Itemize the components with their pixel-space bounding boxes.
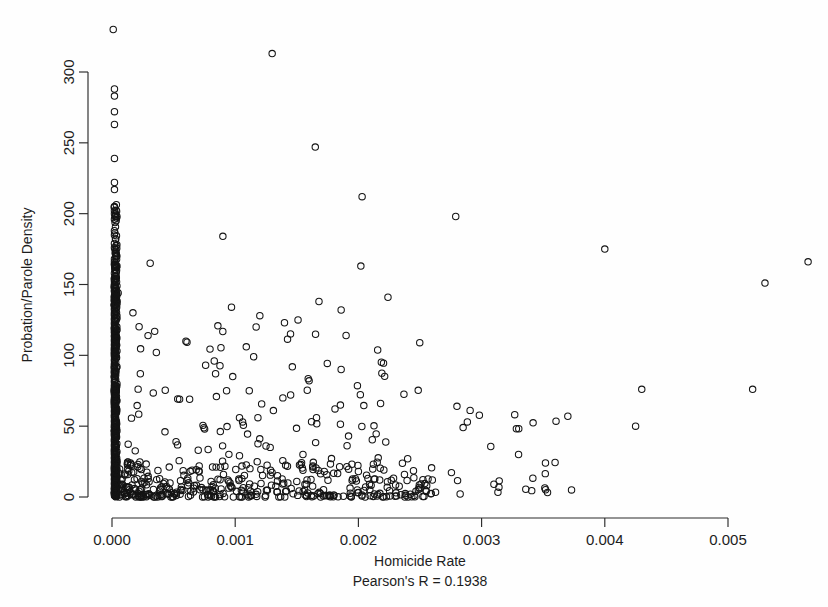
x-axis-title: Homicide Rate [374, 553, 466, 569]
x-tick-label: 0.003 [463, 531, 501, 548]
x-tick-label: 0.002 [340, 531, 378, 548]
y-tick-label: 250 [60, 130, 77, 155]
x-tick-label: 0.004 [586, 531, 624, 548]
pearson-r-annotation: Pearson's R = 0.1938 [353, 573, 488, 589]
y-tick-label: 100 [60, 343, 77, 368]
plot-canvas: 050100150200250300 0.0000.0010.0020.0030… [0, 0, 828, 607]
x-tick-label: 0.005 [709, 531, 747, 548]
y-tick-label: 200 [60, 201, 77, 226]
x-tick-label: 0.000 [93, 531, 131, 548]
y-tick-label: 300 [60, 59, 77, 84]
x-tick-label: 0.001 [216, 531, 254, 548]
y-tick-label: 50 [60, 418, 77, 435]
y-tick-label: 150 [60, 272, 77, 297]
scatter-plot-figure: 050100150200250300 0.0000.0010.0020.0030… [0, 0, 828, 607]
y-tick-label: 0 [60, 493, 77, 501]
y-axis-title: Probation/Parole Density [19, 208, 35, 363]
plot-background [0, 0, 828, 607]
